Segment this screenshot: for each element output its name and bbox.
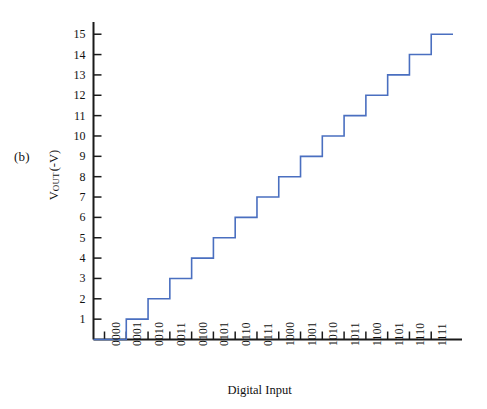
x-tick-label: 0011 (175, 322, 187, 346)
x-tick-label: 1101 (393, 322, 405, 346)
x-tick-label: 1110 (414, 322, 426, 345)
x-tick-label: 1010 (327, 321, 339, 345)
y-tick-label: 3 (60, 271, 86, 286)
y-tick-label: 5 (60, 230, 86, 245)
x-tick-label: 0110 (240, 322, 252, 346)
x-tick-label: 0010 (153, 321, 165, 345)
x-tick-label: 1000 (284, 321, 296, 345)
x-tick-label: 0100 (197, 321, 209, 345)
x-tick-label: 1001 (306, 321, 318, 345)
y-tick-label: 4 (60, 251, 86, 266)
y-tick-label: 14 (60, 47, 86, 62)
y-tick-label: 6 (60, 210, 86, 225)
x-tick-label: 0111 (262, 322, 274, 345)
x-tick-label: 0101 (218, 321, 230, 345)
y-tick-label: 15 (60, 27, 86, 42)
x-tick-label: 1100 (371, 322, 383, 346)
y-tick-label: 1 (60, 312, 86, 327)
y-tick-label: 13 (60, 67, 86, 82)
axes-group (94, 22, 463, 340)
x-tick-label: 1011 (349, 322, 361, 346)
y-tick-label: 9 (60, 149, 86, 164)
y-tick-label: 12 (60, 88, 86, 103)
y-tick-label: 7 (60, 190, 86, 205)
x-tick-label: 1111 (436, 323, 448, 346)
y-tick-label: 11 (60, 108, 86, 123)
figure-panel: (b) VOUT (-V) Digital Input 123456789101… (0, 0, 487, 409)
y-tick-label: 10 (60, 128, 86, 143)
y-tick-label: 2 (60, 291, 86, 306)
tick-marks (94, 34, 432, 339)
x-tick-label: 0001 (131, 321, 143, 345)
y-tick-label: 8 (60, 169, 86, 184)
staircase-data-line (94, 34, 454, 339)
x-tick-label: 0000 (110, 321, 122, 345)
